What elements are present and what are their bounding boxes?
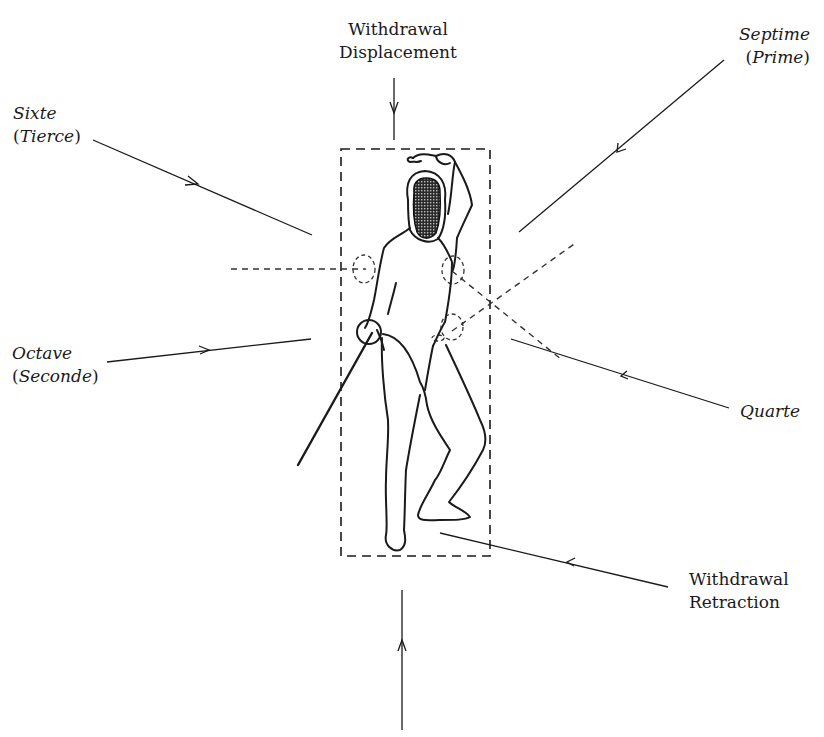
target-circles [353, 255, 464, 341]
label-seconde: Seconde [19, 366, 92, 386]
bottom-vertical-arrow [398, 590, 406, 730]
label-octave-name: Octave [12, 342, 99, 365]
withdrawal-retraction-arrow [440, 533, 668, 587]
paren-close: ) [803, 47, 810, 67]
label-octave: Octave (Seconde) [12, 342, 99, 388]
sixte-arrow [93, 140, 312, 235]
label-withdrawal-displacement-line2: Displacement [326, 41, 470, 64]
paren-open: ( [13, 126, 20, 146]
fencing-diagram [0, 0, 824, 737]
label-withdrawal-retraction: Withdrawal Retraction [689, 568, 789, 614]
withdrawal-displacement-arrow [390, 78, 398, 140]
label-withdrawal-retraction-line2: Retraction [689, 591, 789, 614]
octave-arrow [107, 339, 311, 362]
paren-close: ) [74, 126, 81, 146]
label-quarte: Quarte [740, 400, 800, 423]
label-withdrawal-displacement: Withdrawal Displacement [326, 18, 470, 64]
septime-arrow [519, 60, 724, 232]
label-prime: Prime [752, 47, 803, 67]
target-circle-octave [441, 314, 463, 340]
label-sixte: Sixte (Tierce) [13, 102, 81, 148]
mask-mesh [413, 178, 440, 238]
label-sixte-name: Sixte [13, 102, 81, 125]
label-tierce: Tierce [20, 126, 75, 146]
fencer-figure [298, 154, 486, 550]
label-quarte-name: Quarte [740, 400, 800, 423]
label-septime-name: Septime [700, 23, 810, 46]
paren-open: ( [12, 366, 19, 386]
label-withdrawal-displacement-line1: Withdrawal [326, 18, 470, 41]
paren-close: ) [92, 366, 99, 386]
quarte-arrow [511, 339, 729, 408]
label-withdrawal-retraction-line1: Withdrawal [689, 568, 789, 591]
label-septime: Septime (Prime) [700, 23, 810, 69]
